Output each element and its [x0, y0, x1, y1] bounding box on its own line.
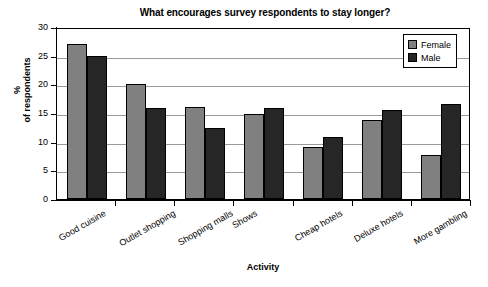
bar-male-0 [87, 56, 107, 199]
chart-title: What encourages survey respondents to st… [60, 7, 470, 18]
x-axis-label-6: More gambling [412, 208, 469, 246]
bar-chart: What encourages survey respondents to st… [0, 0, 488, 287]
x-axis-label-5: Deluxe hotels [353, 208, 405, 244]
y-axis-tick-label: 5 [22, 166, 48, 175]
bar-male-5 [382, 110, 402, 199]
bar-female-5 [362, 120, 382, 199]
y-axis-tick-label: 20 [22, 80, 48, 89]
bar-male-3 [264, 108, 284, 199]
chart-legend: FemaleMale [403, 34, 457, 68]
legend-swatch-icon [408, 53, 417, 62]
x-axis-tick [233, 201, 234, 206]
y-axis-tick-label: 25 [22, 52, 48, 61]
x-axis-title: Activity [56, 262, 470, 272]
x-axis-label-0: Good cuisine [57, 208, 108, 243]
bar-male-1 [146, 108, 166, 199]
gridline [57, 86, 469, 87]
legend-item-male: Male [408, 51, 451, 64]
x-axis-tick [174, 201, 175, 206]
y-axis-tick-label: 30 [22, 23, 48, 32]
bar-female-4 [303, 147, 323, 199]
y-axis-title: % of respondents [12, 30, 32, 150]
x-axis-tick [470, 201, 471, 206]
bar-male-2 [205, 128, 225, 199]
x-axis-tick [352, 201, 353, 206]
bar-female-6 [421, 155, 441, 199]
legend-label: Female [421, 40, 451, 50]
y-axis-tick-label: 10 [22, 138, 48, 147]
x-axis-label-1: Outlet shopping [117, 208, 177, 248]
bar-female-1 [126, 84, 146, 199]
legend-label: Male [421, 53, 441, 63]
x-axis-tick [115, 201, 116, 206]
x-axis-tick [411, 201, 412, 206]
x-axis-label-4: Cheap hotels [293, 208, 344, 243]
y-axis-tick-label: 15 [22, 109, 48, 118]
bar-female-2 [185, 107, 205, 199]
x-axis-tick [293, 201, 294, 206]
x-axis-line [56, 200, 471, 201]
legend-item-female: Female [408, 38, 451, 51]
bar-male-6 [441, 104, 461, 199]
legend-swatch-icon [408, 40, 417, 49]
y-axis-tick-label: 0 [22, 195, 48, 204]
x-axis-label-2: Shopping malls [176, 208, 234, 247]
x-axis-label-3: Shows [231, 208, 259, 230]
bar-female-3 [244, 114, 264, 199]
bar-female-0 [67, 44, 87, 199]
bar-male-4 [323, 137, 343, 199]
